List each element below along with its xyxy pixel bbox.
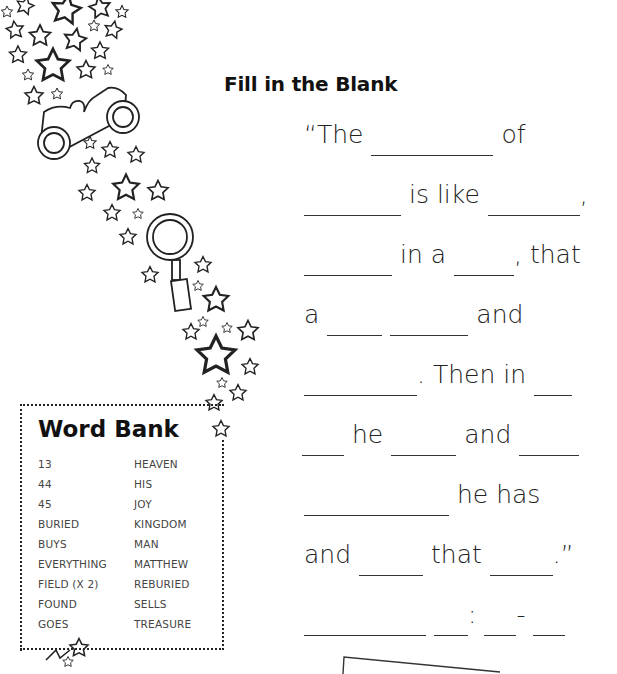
word-bank-item: TREASURE [134,616,191,636]
answer-blank[interactable] [327,305,382,336]
word-bank-item: BUYS [38,536,107,556]
word-bank-item: JOY [134,496,191,516]
passage-line: “Theof [304,120,534,156]
word-bank-item: HIS [134,476,191,496]
answer-blank[interactable] [304,605,426,636]
word-bank-border-right [222,440,224,650]
word-bank-item: KINGDOM [134,516,191,536]
passage-text: he [352,420,383,450]
passage-text: is like [409,180,480,210]
passage-text: , [580,180,588,210]
answer-blank[interactable] [302,425,344,456]
answer-blank[interactable] [304,245,392,276]
word-bank-item: 44 [38,476,107,496]
binoculars-icon [38,88,139,159]
answer-blank[interactable] [391,425,456,456]
passage-text: and [476,300,523,330]
passage-line: andthat.” [304,540,582,576]
word-bank-item: BURIED [38,516,107,536]
answer-blank[interactable] [533,605,565,636]
passage-text: a [304,300,319,330]
word-bank-column-2: HEAVEN HIS JOY KINGDOM MAN MATTHEW REBUR… [134,456,191,636]
passage-text: in a [400,240,446,270]
answer-blank[interactable] [484,605,516,636]
word-bank-item: 13 [38,456,107,476]
next-panel-border [343,657,500,674]
answer-blank[interactable] [359,545,423,576]
page-title: Fill in the Blank [224,72,397,96]
passage-line: . Then in [304,360,580,396]
passage-text: “The [304,120,363,150]
word-bank-item: SELLS [134,596,191,616]
passage-text: of [501,120,525,150]
passage-text: and [304,540,351,570]
word-bank-item: EVERYTHING [38,556,107,576]
passage-line: :- [304,600,573,636]
passage-line: in a, that [304,240,589,276]
answer-blank[interactable] [304,365,417,396]
passage-text: : [468,600,476,630]
answer-blank[interactable] [490,545,553,576]
word-bank-column-1: 13 44 45 BURIED BUYS EVERYTHING FIELD (X… [38,456,107,636]
word-bank-title: Word Bank [38,416,179,442]
answer-blank[interactable] [371,125,493,156]
passage-text: and [464,420,511,450]
word-bank-item: MAN [134,536,191,556]
word-bank-border-bottom [20,648,224,650]
word-bank-item: REBURIED [134,576,191,596]
answer-blank[interactable] [390,305,468,336]
passage-text: that [431,540,482,570]
answer-blank[interactable] [454,245,514,276]
answer-blank[interactable] [534,365,572,396]
answer-blank[interactable] [304,185,401,216]
passage-text: - [516,600,525,630]
answer-blank[interactable] [304,485,449,516]
answer-blank[interactable] [488,185,580,216]
passage-line: aand [304,300,531,336]
passage-line: heand [302,420,587,456]
word-bank-item: MATTHEW [134,556,191,576]
passage-text: , that [514,240,581,270]
word-bank-item: FIELD (X 2) [38,576,107,596]
word-bank-item: HEAVEN [134,456,191,476]
word-bank-item: GOES [38,616,107,636]
word-bank-item: FOUND [38,596,107,616]
passage-text: he has [457,480,540,510]
word-bank-item: 45 [38,496,107,516]
passage-line: he has [304,480,548,516]
passage-text: .” [553,540,574,570]
wing-stroke-icon [46,650,70,660]
passage-text: . Then in [417,360,526,390]
magnifying-glass-icon [147,214,193,311]
answer-blank[interactable] [519,425,579,456]
answer-blank[interactable] [434,605,468,636]
passage-line: is like, [304,180,596,216]
